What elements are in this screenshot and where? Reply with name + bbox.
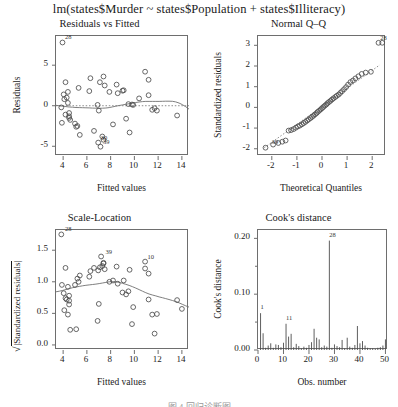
x-axis-title-obs-number: Obs. number bbox=[257, 377, 387, 387]
point-label-28: 28 bbox=[65, 225, 72, 232]
y-tick-label: 0.0 bbox=[15, 338, 48, 348]
y-tick-label: -2 bbox=[217, 142, 250, 152]
y-tick-label: -1 bbox=[217, 121, 250, 131]
y-tick-label: 1.5 bbox=[15, 243, 48, 253]
x-axis-title-fitted-values: Fitted values bbox=[55, 183, 188, 193]
x-axis-title-fitted-values-scale: Fitted values bbox=[55, 377, 188, 387]
y-tick-label: 0.5 bbox=[15, 306, 48, 316]
y-tick-label: 3 bbox=[217, 38, 250, 48]
point-label-28: 28 bbox=[329, 231, 336, 238]
panel-title-residuals-vs-fitted: Residuals vs Fitted bbox=[0, 18, 199, 29]
point-label-39: 39 bbox=[272, 138, 279, 145]
y-tick-label: 0.20 bbox=[217, 231, 250, 241]
figure-main-title: lm(states$Murder ~ states$Population + s… bbox=[0, 2, 398, 17]
x-tick-label: 50 bbox=[370, 354, 398, 364]
y-tick-label: 2 bbox=[217, 59, 250, 69]
figure-footer-caption: 图 4 回归诊断图 bbox=[0, 400, 398, 407]
y-tick-label: 1.0 bbox=[15, 275, 48, 285]
y-tick-label: -5 bbox=[15, 139, 48, 149]
point-label-28: 28 bbox=[380, 34, 387, 41]
x-tick-label: 14 bbox=[167, 160, 195, 170]
y-tick-label: 5 bbox=[15, 58, 48, 68]
panel-title-scale-location: Scale-Location bbox=[0, 212, 199, 223]
x-tick-label: 10 bbox=[268, 354, 296, 364]
panel-normal-qq: Normal Q–Q Theoretical Quantiles Standar… bbox=[199, 18, 398, 208]
y-axis-title-residuals: Residuals bbox=[12, 35, 22, 155]
point-label-1: 1 bbox=[261, 303, 264, 310]
point-label-28: 28 bbox=[65, 33, 72, 40]
x-tick-label: 0 bbox=[243, 354, 271, 364]
x-tick-label: 0 bbox=[307, 160, 335, 170]
panel-residuals-vs-fitted: Residuals vs Fitted Fitted values Residu… bbox=[0, 18, 199, 208]
point-label-11: 11 bbox=[286, 314, 292, 321]
x-axis-title-theoretical-quantiles: Theoretical Quantiles bbox=[257, 183, 385, 193]
panel-title-cooks-distance: Cook's distance bbox=[199, 212, 398, 223]
y-tick-label: 1 bbox=[217, 80, 250, 90]
point-label-10: 10 bbox=[148, 253, 155, 260]
point-label-30: 30 bbox=[101, 134, 108, 141]
y-tick-label: 0.10 bbox=[217, 287, 250, 297]
x-tick-label: 2 bbox=[357, 160, 385, 170]
x-tick-label: 40 bbox=[345, 354, 373, 364]
point-label-39: 39 bbox=[105, 248, 112, 255]
y-tick-label: 0 bbox=[217, 100, 250, 110]
x-tick-label: 20 bbox=[294, 354, 322, 364]
plot-area-normal-qq bbox=[257, 35, 385, 155]
plot-area-scale-location bbox=[55, 229, 188, 349]
x-tick-label: -1 bbox=[282, 160, 310, 170]
panel-scale-location: Scale-Location Fitted values √|Standardi… bbox=[0, 212, 199, 406]
panel-cooks-distance: Cook's distance Obs. number Cook's dista… bbox=[199, 212, 398, 406]
plot-area-residuals-vs-fitted bbox=[55, 35, 188, 155]
panel-title-normal-qq: Normal Q–Q bbox=[199, 18, 398, 29]
y-axis-title-standardized-residuals: Standardized residuals bbox=[213, 35, 223, 155]
x-tick-label: 14 bbox=[167, 354, 195, 364]
plot-area-cooks-distance bbox=[257, 229, 387, 349]
x-tick-label: 1 bbox=[332, 160, 360, 170]
x-tick-label: 30 bbox=[319, 354, 347, 364]
x-tick-label: -2 bbox=[257, 160, 285, 170]
y-tick-label: 0.00 bbox=[217, 343, 250, 353]
y-tick-label: 0 bbox=[15, 99, 48, 109]
